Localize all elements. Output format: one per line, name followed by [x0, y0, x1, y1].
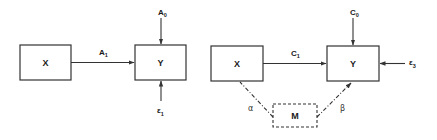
right-alpha-label: α: [248, 104, 253, 113]
mediation-diagram: X Y A1 A0 ε1 X Y C1 C0 ε3 M α β: [0, 0, 437, 140]
right-c0-label: C0: [350, 8, 359, 18]
right-e3-label: ε3: [409, 58, 416, 69]
left-diagram: X Y A1 A0 ε1: [20, 8, 186, 117]
left-x-label: X: [42, 58, 48, 68]
right-alpha-path: [240, 82, 273, 117]
right-y-label: Y: [350, 59, 356, 69]
right-beta-label: β: [340, 104, 345, 113]
right-beta-path: [317, 83, 351, 117]
right-x-label: X: [234, 59, 240, 69]
left-a0-label: A0: [158, 8, 167, 18]
left-a1-label: A1: [99, 48, 108, 58]
right-diagram: X Y C1 C0 ε3 M α β: [211, 8, 416, 127]
left-y-label: Y: [157, 58, 163, 68]
right-c1-label: C1: [291, 49, 300, 59]
right-m-label: M: [291, 111, 299, 121]
left-e1-label: ε1: [157, 106, 164, 117]
